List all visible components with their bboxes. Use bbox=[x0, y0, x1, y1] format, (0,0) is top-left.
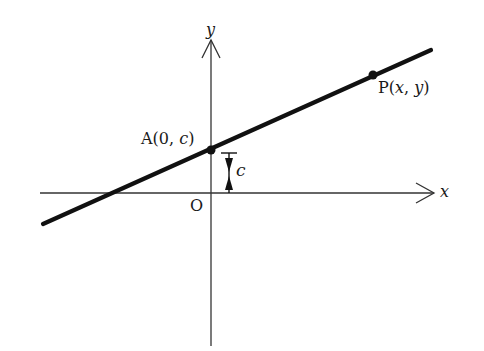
point-a-close: ) bbox=[188, 129, 194, 148]
intercept-marker bbox=[221, 153, 237, 193]
point-a-c: c bbox=[179, 129, 188, 148]
point-p-y: y bbox=[414, 78, 423, 97]
intercept-arrow-up-icon bbox=[225, 158, 233, 172]
intercept-arrow-down-icon bbox=[225, 176, 233, 190]
point-p-close: ) bbox=[423, 78, 429, 97]
intercept-label: c bbox=[236, 162, 246, 179]
line-intercept-diagram: y x O A(0, c) P(x, y) c bbox=[0, 0, 484, 351]
y-axis-label: y bbox=[206, 22, 215, 38]
point-a-dot bbox=[207, 146, 216, 155]
x-axis-label: x bbox=[440, 184, 449, 200]
point-p-x: x bbox=[395, 78, 404, 97]
point-p-sep: , bbox=[404, 78, 414, 97]
point-p-label: P(x, y) bbox=[378, 80, 430, 96]
point-p-name: P( bbox=[378, 78, 395, 97]
point-p-dot bbox=[369, 71, 378, 80]
point-a-name: A(0, bbox=[141, 129, 179, 148]
origin-label: O bbox=[190, 198, 203, 214]
point-a-label: A(0, c) bbox=[141, 131, 194, 147]
